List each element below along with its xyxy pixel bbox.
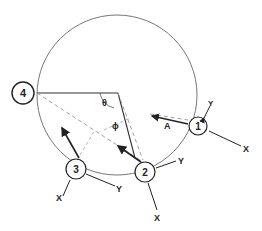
node-3: 3 — [66, 159, 86, 179]
node2-y-label: Y — [178, 156, 184, 166]
dashed-line-center-to-2 — [118, 93, 143, 160]
node-2: 2 — [135, 162, 155, 182]
node1-x-label: X — [243, 144, 249, 154]
diagram-svg: θ ϕ A 4 1 Y X 2 Y X 3 Y X — [0, 0, 262, 231]
svg-text:3: 3 — [73, 164, 79, 175]
node2-y-axis — [156, 161, 176, 168]
node-4: 4 — [12, 82, 34, 104]
vector-a-label: A — [164, 121, 171, 131]
node1-x-axis — [209, 131, 241, 146]
node3-x-axis — [63, 180, 70, 196]
node2-x-axis — [148, 183, 157, 210]
node1-y-label: Y — [208, 99, 214, 108]
svg-text:2: 2 — [142, 167, 148, 178]
phi-label: ϕ — [112, 121, 119, 131]
vector-to-node2 — [118, 146, 141, 162]
dashed-line-3-branch — [80, 130, 95, 155]
diagram-canvas: θ ϕ A 4 1 Y X 2 Y X 3 Y X — [0, 0, 262, 231]
node3-y-axis — [86, 174, 115, 186]
svg-text:4: 4 — [20, 87, 27, 99]
theta-label: θ — [102, 98, 107, 108]
node2-x-label: X — [154, 213, 160, 223]
vector-to-node3 — [62, 128, 79, 158]
node-1: 1 — [189, 117, 207, 135]
node3-y-label: Y — [116, 184, 122, 194]
main-circle — [37, 15, 197, 175]
node3-x-label: X — [56, 193, 62, 203]
svg-text:1: 1 — [195, 121, 201, 132]
